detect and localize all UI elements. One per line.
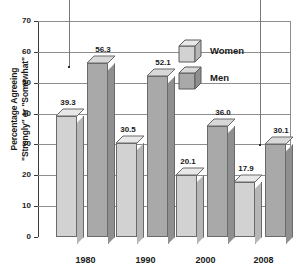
- bar-top-face: [265, 137, 286, 144]
- bar-side-face: [255, 182, 262, 244]
- y-tick-label: 40: [9, 109, 31, 118]
- bar-men-1990: [147, 76, 168, 237]
- x-tick-label-2000: 2000: [172, 255, 239, 265]
- bar-women-1990: [116, 143, 137, 237]
- y-tick-mark: [34, 144, 38, 145]
- bar-top-face: [56, 109, 77, 116]
- x-tick-label-1990: 1990: [112, 255, 179, 265]
- bar-top-face: [147, 69, 168, 76]
- bar-side-face: [137, 143, 144, 244]
- leader-line-right: [260, 0, 261, 146]
- bar-value-label: 36.0: [205, 108, 241, 117]
- bar-men-2008: [265, 144, 286, 237]
- bar-front-face: [207, 126, 228, 237]
- legend-label: Women: [210, 45, 244, 56]
- y-tick-label: 0: [9, 232, 31, 241]
- bar-top-face: [176, 168, 197, 175]
- bar-front-face: [176, 175, 197, 237]
- bar-top-face: [207, 119, 228, 126]
- y-tick-mark: [34, 83, 38, 84]
- y-tick-label: 70: [9, 16, 31, 25]
- bar-chart: Percentage Agreeing "Strongly" or "Somew…: [0, 0, 297, 277]
- bar-side-face: [77, 116, 84, 244]
- cube-dark-icon: [179, 67, 202, 92]
- bar-top-face: [87, 56, 108, 63]
- bar-value-label: 20.1: [170, 157, 206, 166]
- bar-value-label: 30.1: [263, 126, 297, 135]
- leader-line-left-dot: [68, 66, 70, 68]
- plot-area: 010203040506070 39.356.330.552.120.136.0…: [38, 21, 291, 237]
- bar-top-face: [116, 136, 137, 143]
- bar-front-face: [147, 76, 168, 237]
- bar-side-face: [108, 63, 115, 244]
- bar-front-face: [56, 116, 77, 237]
- y-axis-line: [38, 21, 39, 237]
- y-tick-mark: [34, 114, 38, 115]
- bar-women-2000: [176, 175, 197, 237]
- legend-label: Men: [210, 72, 229, 83]
- leader-line-right-dot: [259, 144, 261, 146]
- y-tick-mark: [34, 21, 38, 22]
- bar-front-face: [265, 144, 286, 237]
- gridline: [38, 21, 291, 22]
- bar-side-face: [197, 175, 204, 244]
- cube-light-icon: [179, 40, 202, 65]
- bar-women-1980: [56, 116, 77, 237]
- bar-top-face: [234, 175, 255, 182]
- y-tick-label: 20: [9, 170, 31, 179]
- y-tick-mark: [34, 52, 38, 53]
- x-tick-label-1980: 1980: [52, 255, 119, 265]
- bar-front-face: [116, 143, 137, 237]
- y-tick-label: 50: [9, 78, 31, 87]
- y-tick-label: 30: [9, 139, 31, 148]
- bar-value-label: 30.5: [110, 125, 146, 134]
- bar-women-2008: [234, 182, 255, 237]
- y-tick-label: 60: [9, 47, 31, 56]
- bar-men-1980: [87, 63, 108, 237]
- y-tick-mark: [34, 175, 38, 176]
- bar-front-face: [87, 63, 108, 237]
- leader-line-left: [69, 0, 70, 68]
- bar-value-label: 56.3: [85, 45, 121, 54]
- bar-value-label: 39.3: [50, 98, 86, 107]
- bar-value-label: 17.9: [228, 164, 264, 173]
- bar-men-2000: [207, 126, 228, 237]
- bar-side-face: [286, 144, 293, 244]
- y-tick-label: 10: [9, 201, 31, 210]
- bar-front-face: [234, 182, 255, 237]
- gridline: [38, 52, 291, 53]
- x-tick-label-2008: 2008: [230, 255, 297, 265]
- y-tick-mark: [34, 237, 38, 238]
- y-tick-mark: [34, 206, 38, 207]
- bar-value-label: 52.1: [145, 58, 181, 67]
